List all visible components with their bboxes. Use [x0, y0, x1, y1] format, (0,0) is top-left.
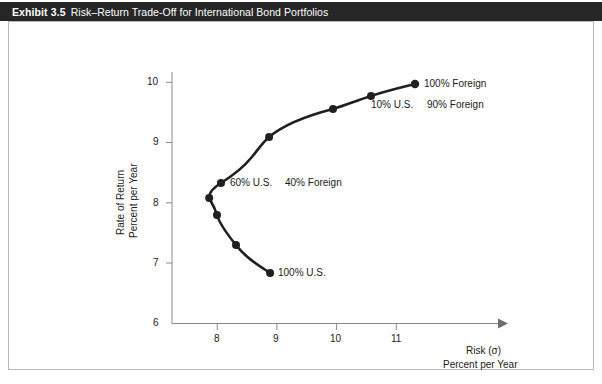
exhibit-title: Risk–Return Trade-Off for International …	[71, 6, 329, 18]
exhibit-label: Exhibit 3.5	[12, 6, 66, 18]
x-tick-label-9: 9	[273, 333, 279, 344]
y-axis-title: Rate of Return	[115, 170, 128, 235]
y-tick-label-7: 7	[153, 257, 159, 268]
annotation-90-foreign: 90% Foreign	[427, 99, 484, 110]
y-tick-label-10: 10	[147, 76, 158, 87]
y-tick-label-9: 9	[153, 136, 159, 147]
annotation-100-foreign: 100% Foreign	[424, 78, 486, 89]
chart-panel	[8, 21, 594, 370]
exhibit-title-bar: Exhibit 3.5 Risk–Return Trade-Off for In…	[0, 2, 602, 21]
x-tick-label-8: 8	[214, 333, 220, 344]
y-axis-subtitle: Percent per Year	[128, 164, 141, 239]
annotation-60-us: 60% U.S.	[230, 177, 272, 188]
annotation-10-us: 10% U.S.	[371, 99, 413, 110]
y-tick-label-8: 8	[153, 197, 159, 208]
annotation-100-us: 100% U.S.	[278, 267, 326, 278]
x-tick-label-10: 10	[330, 333, 341, 344]
y-tick-label-6: 6	[153, 317, 159, 328]
exhibit-figure: Exhibit 3.5 Risk–Return Trade-Off for In…	[0, 0, 602, 384]
annotation-40-foreign: 40% Foreign	[285, 177, 342, 188]
x-tick-label-11: 11	[391, 333, 401, 344]
x-axis-subtitle: Percent per Year	[443, 359, 518, 370]
x-axis-title: Risk (σ)	[466, 345, 501, 356]
